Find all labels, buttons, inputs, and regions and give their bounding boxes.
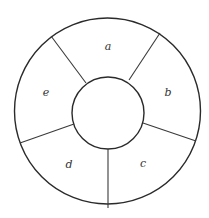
- divider-e-a: [51, 36, 86, 83]
- inner-circle: [72, 77, 144, 149]
- sector-label-d: d: [65, 158, 72, 171]
- sector-labels: a b c d e: [43, 40, 172, 171]
- sector-label-a: a: [105, 40, 112, 53]
- sector-label-e: e: [43, 86, 50, 99]
- divider-a-b: [129, 33, 160, 80]
- sector-label-c: c: [140, 157, 146, 170]
- annulus-sector-diagram: a b c d e: [0, 0, 209, 218]
- divider-b-c: [143, 123, 196, 141]
- divider-d-e: [20, 124, 74, 143]
- sector-label-b: b: [164, 86, 171, 99]
